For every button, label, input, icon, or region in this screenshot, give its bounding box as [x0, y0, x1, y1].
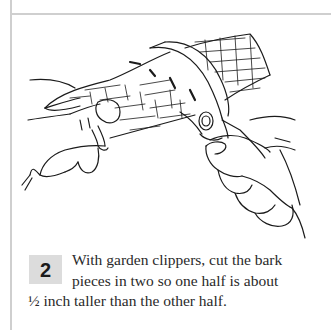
hands-cutting-bark-with-garden-clippers-icon [10, 30, 330, 240]
step-instruction-line-3: ½ inch taller than the other half. [28, 291, 227, 311]
clippers-cutting-bark-illustration [10, 30, 330, 240]
page-rule-horizontal [10, 13, 331, 15]
step-number-badge: 2 [29, 255, 62, 284]
step-instruction-line-2: pieces in two so one half is about [72, 271, 278, 291]
step-instruction-line-1: With garden clippers, cut the bark [72, 250, 282, 270]
